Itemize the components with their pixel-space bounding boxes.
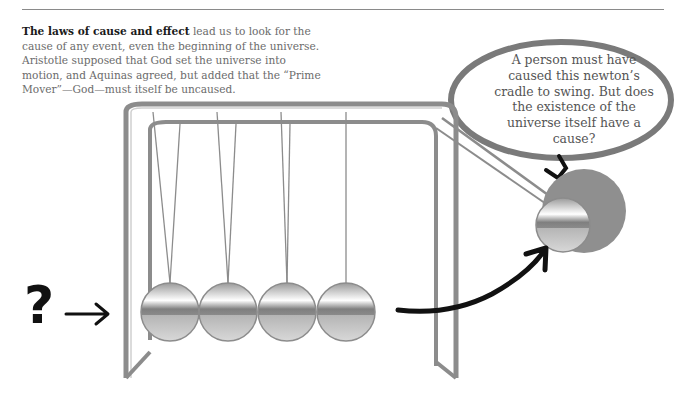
ball-1 (141, 283, 199, 341)
ball-4 (317, 283, 375, 341)
swinging-ball (536, 169, 626, 253)
cradle-strings (153, 112, 346, 283)
right-arrow-icon (66, 304, 108, 324)
thought-bubble-text: A person must have caused this newton’s … (490, 52, 658, 147)
ball-3 (258, 283, 316, 341)
curved-arrow-icon (398, 248, 546, 311)
ball-2 (199, 283, 257, 341)
question-mark-icon: ? (24, 275, 54, 335)
cradle-balls (141, 283, 375, 341)
